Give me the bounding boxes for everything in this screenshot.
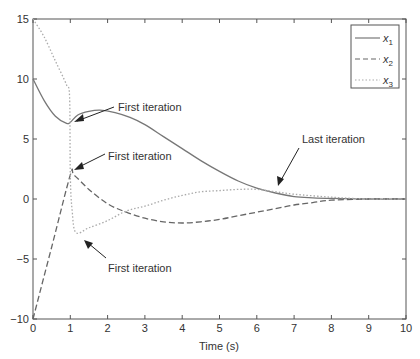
series-x3: [33, 19, 406, 233]
x-tick-label: 2: [105, 322, 111, 334]
legend: x1 x2 x3: [351, 25, 399, 89]
plot-frame: [33, 19, 406, 319]
y-tick-label: −5: [16, 253, 29, 265]
y-tick-label: 15: [17, 13, 29, 25]
x-tick-label: 5: [216, 322, 222, 334]
x-tick-label: 6: [254, 322, 260, 334]
x-tick-label: 3: [142, 322, 148, 334]
annotation-last-iteration: Last iteration: [277, 133, 365, 186]
y-tick-label: 10: [17, 73, 29, 85]
x-tick-label: 10: [400, 322, 412, 334]
y-tick-label: 5: [23, 133, 29, 145]
data-series: [33, 19, 406, 319]
x-tick-label: 9: [366, 322, 372, 334]
line-chart: 012345678910151050−5−10 Time (s) First i…: [0, 0, 420, 359]
svg-text:First iteration: First iteration: [118, 101, 182, 113]
svg-text:First iteration: First iteration: [108, 150, 172, 162]
legend-box: [351, 25, 399, 88]
x-tick-label: 7: [291, 322, 297, 334]
annotation-first-iteration-x2: First iteration: [74, 150, 172, 170]
x-axis-label: Time (s): [199, 340, 239, 352]
x-tick-label: 1: [67, 322, 73, 334]
svg-text:First iteration: First iteration: [108, 262, 172, 274]
annotation-first-iteration-x3-low: First iteration: [84, 240, 172, 274]
x-tick-label: 4: [179, 322, 185, 334]
y-tick-label: −10: [10, 313, 29, 325]
svg-text:Last iteration: Last iteration: [302, 133, 365, 145]
chart-container: 012345678910151050−5−10 Time (s) First i…: [0, 0, 420, 359]
x-tick-label: 0: [30, 322, 36, 334]
x-tick-label: 8: [328, 322, 334, 334]
y-tick-label: 0: [23, 193, 29, 205]
